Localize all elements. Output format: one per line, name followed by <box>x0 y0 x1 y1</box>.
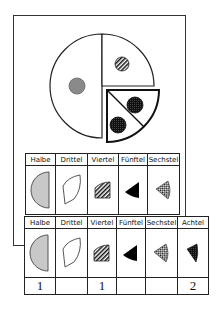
header-fuenftel: Fünftel <box>119 154 148 166</box>
striped-dot-icon <box>115 57 129 71</box>
header-achtel: Achtel <box>178 217 209 229</box>
value-halbe: 1 <box>25 278 56 295</box>
quarter-striped-icon <box>93 180 113 200</box>
half-gray-icon <box>29 233 51 273</box>
cell-viertel <box>88 166 119 215</box>
cell-achtel <box>178 229 209 278</box>
pie-half <box>50 34 102 138</box>
eighth-checker-icon <box>185 242 201 264</box>
gray-dot-icon <box>69 78 85 94</box>
header-sechstel: Sechstel <box>146 217 178 229</box>
header-fuenftel: Fünftel <box>117 217 146 229</box>
cell-halbe <box>26 166 56 215</box>
third-outline-icon <box>60 236 84 270</box>
value-achtel: 2 <box>178 278 209 295</box>
quarter-striped-icon <box>92 243 112 263</box>
pie-eighths-exploded <box>107 90 159 142</box>
checker-dot-icon <box>127 97 143 113</box>
checker-dot-icon <box>110 117 126 133</box>
cell-drittel <box>56 229 88 278</box>
value-sechstel <box>146 278 178 295</box>
fraction-table-2: Halbe Drittel Viertel Fünftel Sechstel A… <box>24 216 209 295</box>
cell-sechstel <box>148 166 180 215</box>
value-viertel: 1 <box>88 278 117 295</box>
cell-halbe <box>25 229 56 278</box>
header-viertel: Viertel <box>88 154 119 166</box>
third-outline-icon <box>60 173 84 207</box>
cell-sechstel <box>146 229 178 278</box>
header-halbe: Halbe <box>25 217 56 229</box>
sixth-checker-icon <box>154 179 174 201</box>
half-gray-icon <box>30 170 52 210</box>
value-fuenftel <box>117 278 146 295</box>
cell-fuenftel <box>119 166 148 215</box>
pie-quarter <box>102 34 154 86</box>
fifth-black-icon <box>121 243 141 263</box>
value-drittel <box>56 278 88 295</box>
cell-fuenftel <box>117 229 146 278</box>
sixth-checker-icon <box>152 242 172 264</box>
header-drittel: Drittel <box>56 154 88 166</box>
cell-viertel <box>88 229 117 278</box>
cell-drittel <box>56 166 88 215</box>
header-drittel: Drittel <box>56 217 88 229</box>
header-viertel: Viertel <box>88 217 117 229</box>
fifth-black-icon <box>123 180 143 200</box>
fraction-table-1: Halbe Drittel Viertel Fünftel Sechstel <box>25 153 180 215</box>
header-sechstel: Sechstel <box>148 154 180 166</box>
header-halbe: Halbe <box>26 154 56 166</box>
